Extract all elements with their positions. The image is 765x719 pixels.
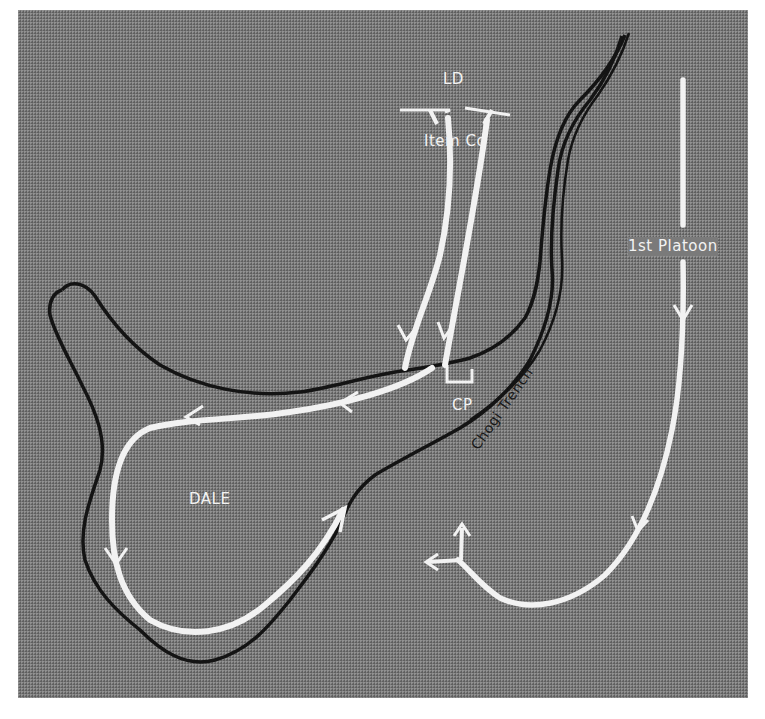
line-of-departure-marks bbox=[400, 108, 510, 124]
map-page: LD Item Co 1st Platoon CP DALE Chogi Tre… bbox=[0, 0, 765, 719]
label-item-co: Item Co bbox=[424, 134, 486, 149]
chogi-trench-line bbox=[470, 33, 629, 420]
dale-hill-outline bbox=[50, 35, 625, 662]
route-item-co-sweep bbox=[112, 368, 432, 632]
label-line-of-departure: LD bbox=[443, 72, 464, 87]
route-1st-platoon bbox=[458, 80, 683, 605]
label-1st-platoon: 1st Platoon bbox=[628, 237, 718, 256]
label-objective-dale: DALE bbox=[189, 492, 230, 507]
command-post-symbol bbox=[447, 365, 472, 382]
route-1st-platoon-split-north bbox=[461, 528, 462, 560]
tactical-map bbox=[0, 0, 765, 719]
label-command-post: CP bbox=[452, 398, 473, 413]
route-item-co-left bbox=[405, 118, 450, 368]
route-1st-platoon-split-west bbox=[428, 560, 461, 562]
